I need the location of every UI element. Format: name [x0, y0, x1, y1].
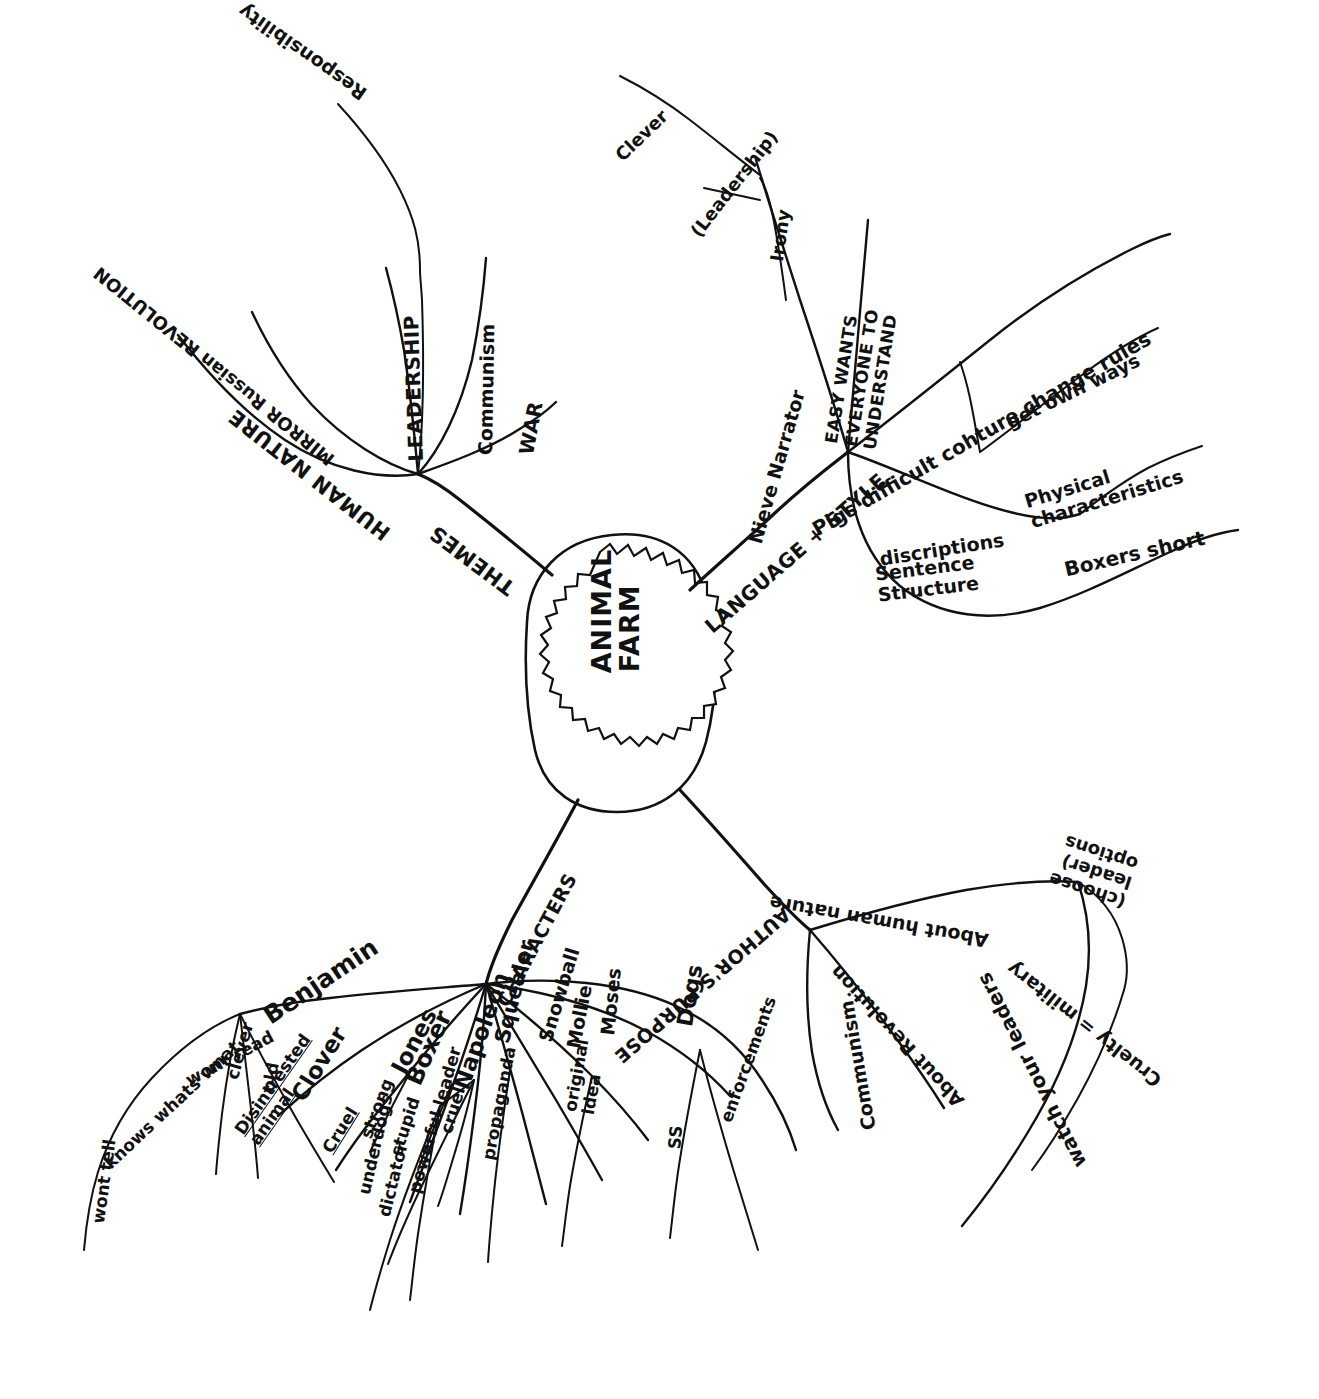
center-label-line1: ANIMAL: [588, 583, 616, 673]
center-node-label: ANIMAL FARM: [588, 583, 645, 673]
branch-purpose-communism: [807, 930, 838, 1130]
mindmap-canvas: ANIMAL FARM THEMES HUMAN NATURE MIRROR R…: [0, 0, 1319, 1399]
label-ss[interactable]: SS: [664, 1124, 686, 1150]
mindmap-lines: [0, 0, 1319, 1399]
center-label-line2: FARM: [616, 583, 644, 673]
label-communism[interactable]: Communism: [474, 324, 498, 456]
label-leadership[interactable]: LEADERSHIP: [399, 314, 428, 462]
branch-responsibility: [338, 104, 420, 270]
